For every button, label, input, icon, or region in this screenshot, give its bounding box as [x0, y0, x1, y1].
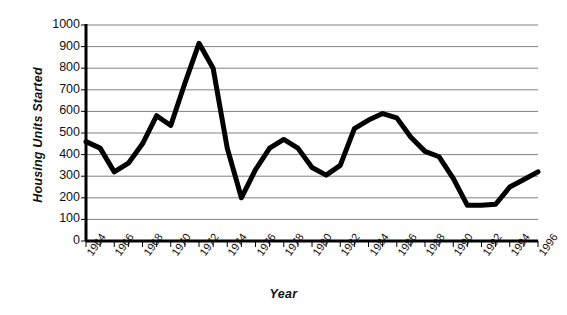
housing-starts-line-chart: Housing Units Started 010020030040050060…: [0, 0, 567, 315]
x-axis-title: Year: [0, 287, 567, 301]
data-series-line: [86, 43, 538, 205]
plot-area: [0, 0, 567, 315]
